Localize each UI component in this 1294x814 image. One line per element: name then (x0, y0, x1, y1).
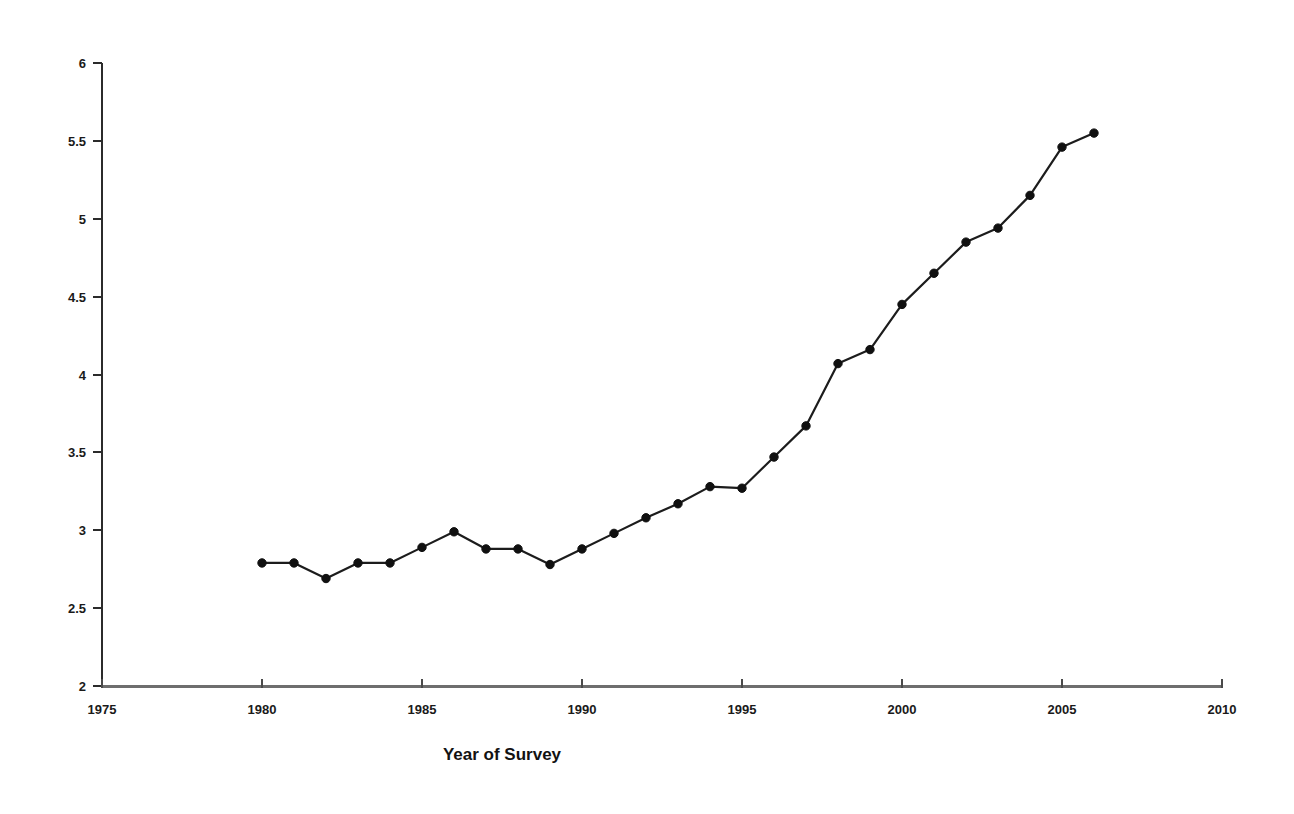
data-point (834, 359, 842, 367)
data-point (322, 574, 330, 582)
data-point (898, 300, 906, 308)
data-point (962, 238, 970, 246)
y-tick-label: 4.5 (68, 290, 86, 305)
data-point (450, 528, 458, 536)
chart-figure: 22.533.544.555.56 1975198019851990199520… (0, 0, 1294, 814)
x-tick-label: 2010 (1208, 702, 1237, 717)
x-tick-label: 2000 (888, 702, 917, 717)
data-point (1026, 191, 1034, 199)
data-point (1090, 129, 1098, 137)
data-point (1058, 143, 1066, 151)
y-tick-label: 5.5 (68, 134, 86, 149)
data-point (802, 422, 810, 430)
y-tick-label: 2 (79, 679, 86, 694)
y-tick-label: 6 (79, 56, 86, 71)
data-point (610, 529, 618, 537)
y-tick-label: 2.5 (68, 601, 86, 616)
x-axis-title: Year of Survey (443, 745, 562, 764)
data-point (354, 559, 362, 567)
x-tick-label: 1985 (408, 702, 437, 717)
data-point (482, 545, 490, 553)
x-tick-label: 1980 (248, 702, 277, 717)
data-point (674, 500, 682, 508)
data-point (386, 559, 394, 567)
data-point (290, 559, 298, 567)
x-tick-label: 1975 (88, 702, 117, 717)
data-point (738, 484, 746, 492)
data-point (642, 514, 650, 522)
data-point (546, 560, 554, 568)
data-point (418, 543, 426, 551)
data-point (706, 482, 714, 490)
x-tick-label: 1990 (568, 702, 597, 717)
x-tick-label: 1995 (728, 702, 757, 717)
data-series-survey-value (258, 129, 1098, 583)
x-tick-label: 2005 (1048, 702, 1077, 717)
y-tick-label: 5 (79, 212, 86, 227)
data-point (770, 453, 778, 461)
data-point (258, 559, 266, 567)
y-tick-label: 4 (79, 368, 87, 383)
y-tick-label: 3 (79, 523, 86, 538)
line-chart: 22.533.544.555.56 1975198019851990199520… (0, 0, 1294, 814)
series-line (262, 133, 1094, 578)
x-axis: 19751980198519901995200020052010 (88, 679, 1237, 717)
data-point (866, 345, 874, 353)
data-point (514, 545, 522, 553)
data-point (930, 269, 938, 277)
y-axis: 22.533.544.555.56 (68, 56, 102, 694)
data-point (578, 545, 586, 553)
y-tick-label: 3.5 (68, 445, 86, 460)
data-point (994, 224, 1002, 232)
